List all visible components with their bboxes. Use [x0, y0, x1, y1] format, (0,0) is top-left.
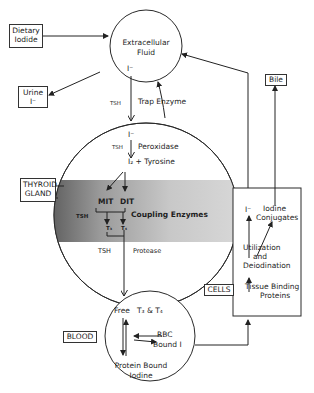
tsh-peroxidase-label: TSH [112, 143, 123, 152]
tsh-trap-label: TSH [110, 99, 121, 108]
bile-label: Bile [269, 75, 283, 84]
iodine-label: Iodine [106, 371, 176, 380]
t4-label: T₄ [121, 224, 127, 233]
cells-label: CELLS [207, 285, 230, 294]
trap-enzyme-label: Trap Enzyme [138, 97, 186, 106]
cells-box: CELLS [204, 284, 234, 296]
tissue-binding-label: Tissue Binding [245, 282, 299, 291]
tsh-coupling-label: TSH [76, 212, 88, 221]
dietary-label: Dietary [12, 26, 40, 35]
tsh-protease-label: TSH [98, 247, 111, 256]
blood-to-cells-arrow [195, 320, 248, 345]
fluid-label: Fluid [106, 48, 186, 57]
dietary-iodide-box: Dietary Iodide [9, 24, 43, 48]
blood-label: BLOOD [67, 332, 94, 341]
free-label: Free [114, 306, 130, 315]
urine-iodide-label: I⁻ [21, 97, 45, 106]
protein-bound-label: Protein Bound [106, 361, 176, 370]
i2-tyrosine-label: I₂ + Tyrosine [128, 157, 175, 166]
gland-label: GLAND [23, 189, 53, 198]
iodide-label: Iodide [12, 35, 40, 44]
conjugates-label: Conjugates [256, 213, 298, 222]
protease-label: Protease [133, 247, 161, 256]
ecf-iodide-label: I⁻ [127, 64, 133, 73]
coupling-enzymes-label: Coupling Enzymes [131, 210, 208, 219]
blood-box: BLOOD [63, 331, 97, 343]
cells-iodide-label: I⁻ [245, 205, 251, 214]
extracellular-label: Extracellular [106, 38, 186, 47]
ecf-to-urine-arrow [49, 72, 100, 95]
thyroid-label: THYROID [23, 180, 53, 189]
peroxidase-label: Peroxidase [138, 142, 179, 151]
rbc-label: RBC [157, 330, 172, 339]
t3-label: T₃ [106, 224, 112, 233]
thyroid-iodide-label: I⁻ [128, 130, 134, 139]
t3-t4-label: T₃ & T₄ [137, 306, 163, 315]
urine-box: Urine I⁻ [18, 86, 48, 108]
bile-box: Bile [265, 74, 287, 86]
utilization-label: Utilization [243, 243, 281, 252]
dit-label: DIT [120, 197, 134, 206]
bound-i-label: Bound I [153, 340, 182, 349]
urine-label: Urine [21, 88, 45, 97]
proteins-label: Proteins [260, 291, 290, 300]
iodine-conj-label: Iodine [263, 204, 286, 213]
mit-label: MIT [98, 197, 113, 206]
and-label: and [253, 252, 267, 261]
thyroid-gland-box: THYROID GLAND [20, 178, 56, 202]
deiodination-label: Deiodination [243, 261, 291, 270]
